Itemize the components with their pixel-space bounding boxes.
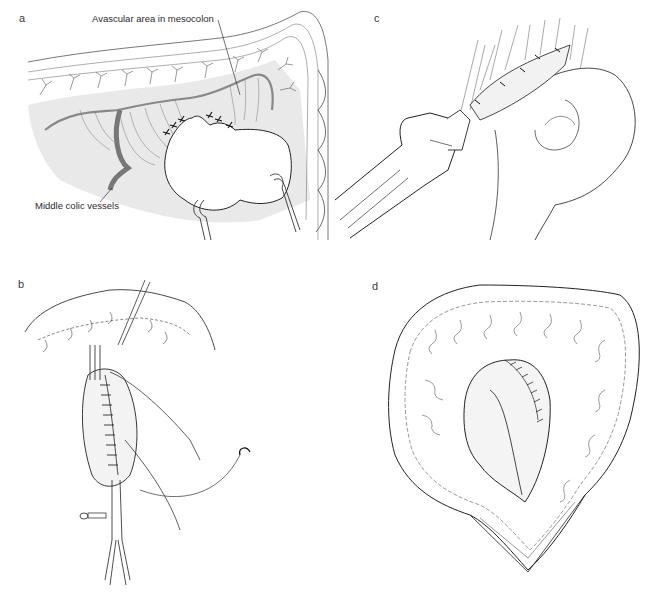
illustration-mesocolon-stomach — [0, 0, 330, 240]
illustration-gastrojejunal-suturing — [0, 240, 330, 602]
panel-c: c — [330, 0, 658, 240]
illustration-completed-anastomosis — [330, 240, 658, 602]
panel-d: d — [330, 240, 658, 602]
panel-a: a Avascular area in mesocolon Stomach Mi… — [0, 0, 330, 240]
illustration-stapler-anastomosis — [330, 0, 658, 240]
panel-b: b — [0, 240, 330, 602]
